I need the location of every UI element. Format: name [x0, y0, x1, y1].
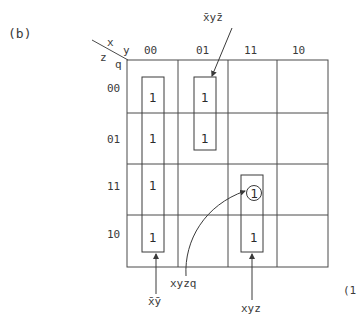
panel-label: (b): [8, 26, 31, 41]
karnaugh-map-figure: (b) x y z q 00 01 11 10 00 01 11 10 1 1 …: [0, 0, 358, 315]
arrow-xbar-y-zbar: [212, 28, 232, 76]
annotation-xbar-ybar: x̄ȳ: [148, 295, 162, 308]
cell-r2-c0: 1: [149, 179, 157, 193]
cell-r2-c2-circled: 1: [251, 187, 259, 201]
corner-var-q: q: [115, 58, 122, 71]
kmap-grid: [127, 60, 328, 267]
cell-r3-c2: 1: [250, 231, 258, 245]
cell-r1-c1: 1: [201, 132, 209, 146]
col-header-00: 00: [144, 44, 157, 57]
row-header-01: 01: [107, 133, 120, 146]
cell-r0-c0: 1: [149, 91, 157, 105]
annotation-xyz: xyz: [241, 302, 261, 315]
row-header-11: 11: [107, 180, 120, 193]
corner-var-y: y: [123, 44, 130, 57]
annotation-xbar-y-zbar: x̄yz̄: [203, 11, 223, 24]
col-header-01: 01: [196, 44, 209, 57]
cell-r1-c0: 1: [149, 132, 157, 146]
corner-var-x: x: [107, 36, 114, 49]
cell-r3-c0: 1: [149, 231, 157, 245]
row-header-10: 10: [107, 228, 120, 241]
annotation-xyzq: xyzq: [170, 277, 197, 290]
clipped-panel-label: (1: [343, 284, 356, 297]
kmap-cells: 1 1 1 1 1 1 1 1: [149, 91, 262, 245]
cell-r0-c1: 1: [201, 91, 209, 105]
col-header-10: 10: [292, 44, 305, 57]
row-headers: 00 01 11 10: [107, 82, 120, 241]
arrow-xyzq: [186, 191, 245, 276]
row-header-00: 00: [107, 82, 120, 95]
col-header-11: 11: [244, 44, 257, 57]
corner-var-z: z: [100, 51, 107, 64]
